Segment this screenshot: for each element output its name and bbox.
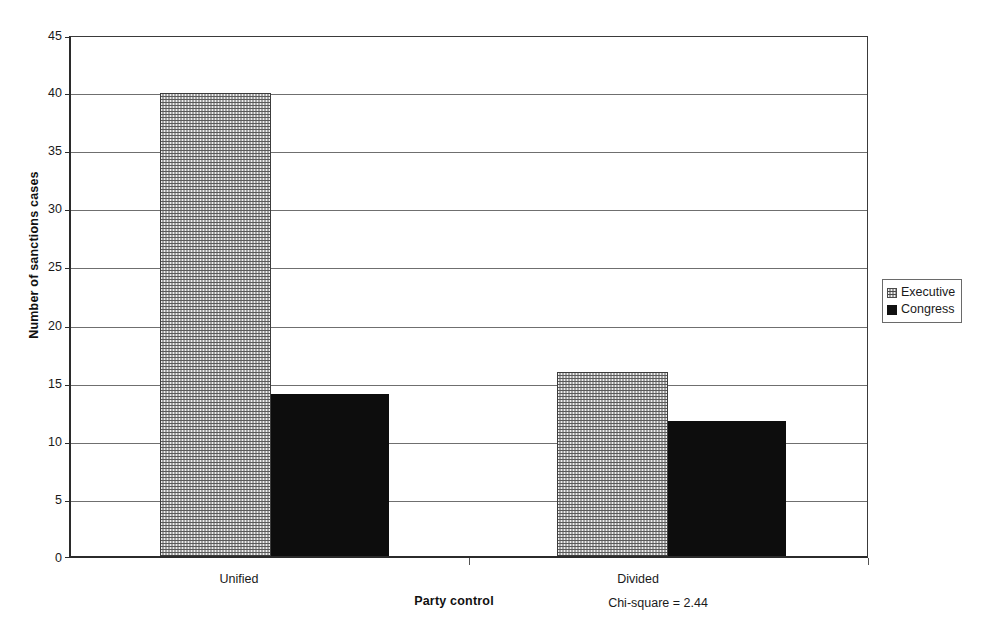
y-tick-30: 30	[32, 203, 62, 215]
y-tick-20: 20	[32, 320, 62, 332]
y-tickmark-40	[65, 94, 71, 95]
legend-label-executive: Executive	[901, 286, 955, 299]
legend: Executive Congress	[882, 279, 962, 323]
bar-divided-executive	[557, 372, 668, 556]
y-tick-25: 25	[32, 261, 62, 273]
bar-divided-congress	[668, 421, 786, 556]
x-category-label-divided: Divided	[568, 572, 708, 586]
y-tick-15: 15	[32, 378, 62, 390]
y-tick-10: 10	[32, 436, 62, 448]
legend-item-executive: Executive	[887, 284, 955, 301]
x-axis-title: Party control	[374, 594, 534, 608]
y-tickmark-5	[65, 501, 71, 502]
x-tickmark-right-end	[868, 558, 869, 565]
y-tickmark-20	[65, 327, 71, 328]
bar-unified-congress	[271, 394, 389, 556]
y-tickmark-0	[65, 557, 71, 558]
y-tickmark-45	[65, 37, 71, 38]
y-tick-35: 35	[32, 145, 62, 157]
x-tickmark-group-divider	[469, 558, 470, 565]
bar-unified-executive	[160, 93, 271, 556]
chi-square-annotation: Chi-square = 2.44	[568, 596, 748, 610]
legend-label-congress: Congress	[901, 303, 955, 316]
y-tick-40: 40	[32, 87, 62, 99]
dotted-square-icon	[887, 288, 897, 298]
y-tickmark-10	[65, 443, 71, 444]
y-tick-5: 5	[32, 494, 62, 506]
y-tickmark-25	[65, 268, 71, 269]
bar-chart: Number of sanctions cases 45 40 35 30 25…	[0, 0, 988, 634]
y-tick-0: 0	[32, 552, 62, 564]
plot-area	[69, 36, 868, 558]
y-tickmark-15	[65, 385, 71, 386]
y-axis-tick-labels: 45 40 35 30 25 20 15 10 5 0	[30, 0, 62, 634]
y-tick-45: 45	[32, 30, 62, 42]
y-tickmark-30	[65, 210, 71, 211]
y-tickmark-35	[65, 152, 71, 153]
filled-square-icon	[887, 305, 897, 315]
legend-item-congress: Congress	[887, 301, 955, 318]
x-category-label-unified: Unified	[169, 572, 309, 586]
